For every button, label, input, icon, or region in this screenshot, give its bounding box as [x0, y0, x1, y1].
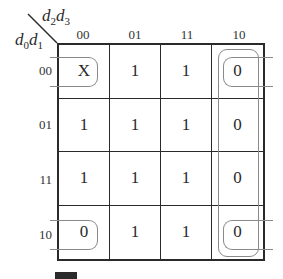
kmap-cell: 1 — [110, 206, 161, 260]
kmap-cell: 1 — [161, 45, 212, 99]
column-header: 01 — [109, 27, 161, 43]
row-header: 01 — [30, 117, 52, 133]
corner-loop-bottom-right — [223, 220, 273, 250]
kmap-cell: 1 — [110, 45, 161, 99]
corner-loop-top-right — [223, 57, 273, 87]
kmap-cell: 1 — [59, 152, 110, 206]
kmap-cell: 1 — [110, 152, 161, 206]
row-variables-label: d0d1 — [15, 30, 43, 51]
corner-loop-bottom-left — [50, 220, 98, 250]
kmap-cell: 1 — [161, 99, 212, 153]
kmap-cell: 1 — [110, 99, 161, 153]
kmap-cell: 1 — [161, 152, 212, 206]
row-header: 10 — [30, 227, 52, 243]
row-header: 11 — [30, 172, 52, 188]
column-header: 10 — [213, 27, 265, 43]
column-header: 11 — [161, 27, 213, 43]
kmap-cell: 1 — [161, 206, 212, 260]
partial-legend-marker — [55, 272, 77, 279]
corner-loop-top-left — [50, 57, 98, 87]
column-variables-label: d2d3 — [42, 6, 70, 27]
row-header: 00 — [30, 63, 52, 79]
kmap-cell: 1 — [59, 99, 110, 153]
column-header: 00 — [57, 27, 109, 43]
